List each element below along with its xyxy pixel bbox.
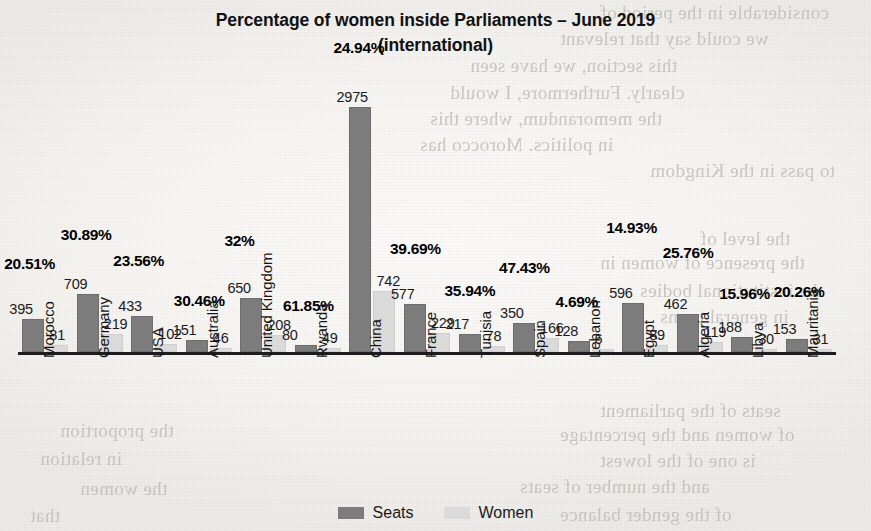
bar-group: 35016647.43% (513, 70, 559, 352)
category-label: United Kingdom (258, 253, 275, 358)
bar-value-label-seats: 217 (446, 316, 470, 332)
legend-label: Seats (373, 504, 414, 522)
category-label: Tunisia (477, 311, 494, 358)
legend-swatch-women (444, 507, 470, 519)
bar-group: 297574224.94% (349, 70, 395, 352)
percentage-annotation: 25.76% (663, 244, 714, 262)
percentage-annotation: 20.51% (4, 255, 55, 273)
bar-value-label-seats: 151 (173, 322, 197, 338)
percentage-annotation: 35.94% (445, 282, 496, 300)
percentage-annotation: 15.96% (719, 285, 770, 303)
bar-group: 46211925.76% (677, 70, 723, 352)
bar-chart: Percentage of women inside Parliaments –… (0, 0, 871, 531)
percentage-annotation: 32% (224, 232, 254, 250)
legend-swatch-seats (338, 507, 364, 519)
bar-value-label-seats: 2975 (336, 89, 367, 105)
category-label: Algeria (695, 312, 712, 358)
bar-group: 43310223.56% (131, 70, 177, 352)
percentage-annotation: 23.56% (113, 252, 164, 270)
category-label: Rwanda (313, 304, 330, 358)
legend-item[interactable]: Seats (338, 504, 414, 522)
percentage-annotation: 30.89% (61, 226, 112, 244)
category-label: Spain (531, 320, 548, 358)
category-label: Egypt (640, 320, 657, 358)
category-label: Mauritania (804, 289, 821, 358)
bar-value-label-seats: 650 (227, 280, 251, 296)
chart-legend: SeatsWomen (0, 504, 871, 522)
bar-group: 2177835.94% (459, 70, 505, 352)
bar-value-label-seats: 596 (609, 285, 633, 301)
bar-value-label-seats: 709 (64, 276, 88, 292)
plot-area: 3958120.51%70921930.89%43310223.56%15146… (18, 70, 836, 352)
percentage-annotation: 14.93% (606, 219, 657, 237)
category-label: China (367, 319, 384, 358)
legend-item[interactable]: Women (444, 504, 534, 522)
bar-value-label-seats: 350 (500, 305, 524, 321)
chart-subtitle: (international) (0, 33, 871, 58)
category-label: Lebanon (586, 300, 603, 358)
bar-value-label-seats: 433 (118, 298, 142, 314)
bar-value-label-seats: 395 (9, 301, 33, 317)
percentage-annotation: 47.43% (499, 259, 550, 277)
bar-seats (349, 107, 371, 352)
bar-group: 5968914.93% (622, 70, 668, 352)
category-label: Germany (95, 297, 112, 358)
category-label: France (422, 312, 439, 358)
category-label: USA (149, 327, 166, 358)
category-label: Australia (204, 301, 221, 358)
bar-value-label-seats: 80 (282, 327, 298, 343)
category-label: Libya (749, 323, 766, 358)
chart-title-main: Percentage of women inside Parliaments –… (216, 10, 655, 30)
bar-group: 1883015.96% (731, 70, 777, 352)
category-label: Morocco (40, 301, 57, 358)
legend-label: Women (479, 504, 534, 522)
chart-title: Percentage of women inside Parliaments –… (0, 8, 871, 58)
bar-value-label-seats: 188 (718, 319, 742, 335)
percentage-annotation: 24.94% (333, 39, 384, 57)
percentage-annotation: 39.69% (390, 240, 441, 258)
bar-value-label-seats: 577 (391, 286, 415, 302)
bar-value-label-seats: 153 (773, 321, 797, 337)
bar-group: 57722939.69% (404, 70, 450, 352)
bar-value-label-seats: 128 (555, 323, 579, 339)
bar-value-label-seats: 462 (664, 296, 688, 312)
